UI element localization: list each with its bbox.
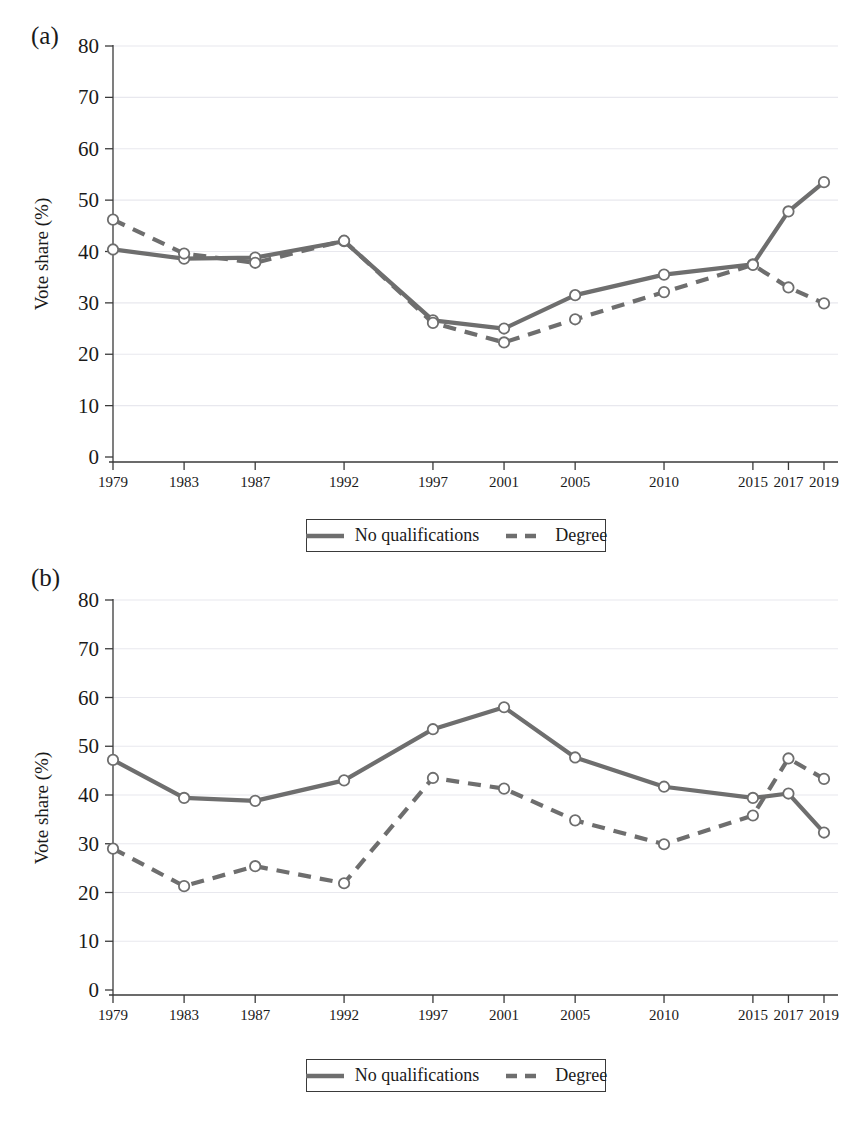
data-point-marker xyxy=(570,314,580,324)
y-tick-label: 10 xyxy=(78,929,99,953)
x-tick-label: 2019 xyxy=(809,1007,839,1023)
x-tick-label: 2019 xyxy=(809,474,839,490)
data-point-marker xyxy=(179,793,189,803)
x-tick-label: 1997 xyxy=(418,474,449,490)
plot-area-b: 0102030405060708019791983198719921997200… xyxy=(0,552,863,1144)
y-tick-label: 70 xyxy=(78,85,99,109)
data-point-marker xyxy=(819,177,829,187)
y-tick-label: 10 xyxy=(78,394,99,418)
y-tick-label: 50 xyxy=(78,734,99,758)
data-point-marker xyxy=(748,260,758,270)
data-point-marker xyxy=(108,755,118,765)
data-point-marker xyxy=(783,788,793,798)
legend-swatch-solid-icon xyxy=(305,1070,345,1082)
data-point-marker xyxy=(499,783,509,793)
x-tick-label: 1983 xyxy=(169,1007,199,1023)
x-tick-label: 1979 xyxy=(98,474,128,490)
data-point-marker xyxy=(499,702,509,712)
data-point-marker xyxy=(179,881,189,891)
legend-label-no-qualifications: No qualifications xyxy=(355,525,479,546)
x-tick-label: 2010 xyxy=(649,1007,679,1023)
x-tick-label: 2005 xyxy=(560,474,590,490)
chart-panel-a: (a) Vote share (%) 010203040506070801979… xyxy=(0,0,863,560)
legend-entry-degree: Degree xyxy=(505,525,607,546)
legend-b: No qualifications Degree xyxy=(306,1059,606,1092)
data-point-marker xyxy=(783,282,793,292)
data-point-marker xyxy=(108,843,118,853)
plot-area-a: 0102030405060708019791983198719921997200… xyxy=(0,0,863,560)
data-point-marker xyxy=(659,269,669,279)
data-point-marker xyxy=(108,214,118,224)
legend-entry-degree: Degree xyxy=(505,1065,607,1086)
data-point-marker xyxy=(428,773,438,783)
data-point-marker xyxy=(428,318,438,328)
data-point-marker xyxy=(570,752,580,762)
x-tick-label: 1992 xyxy=(329,1007,359,1023)
y-tick-label: 30 xyxy=(78,291,99,315)
data-point-marker xyxy=(499,337,509,347)
y-tick-label: 0 xyxy=(89,978,100,1002)
data-point-marker xyxy=(783,206,793,216)
legend-a: No qualifications Degree xyxy=(306,519,606,552)
data-point-marker xyxy=(659,287,669,297)
x-tick-label: 1987 xyxy=(240,1007,271,1023)
data-point-marker xyxy=(108,244,118,254)
data-point-marker xyxy=(339,775,349,785)
y-tick-label: 40 xyxy=(78,783,99,807)
data-point-marker xyxy=(570,815,580,825)
data-point-marker xyxy=(339,878,349,888)
y-tick-label: 0 xyxy=(89,445,100,469)
legend-label-degree: Degree xyxy=(555,525,607,546)
y-tick-label: 80 xyxy=(78,588,99,612)
data-point-marker xyxy=(819,774,829,784)
data-point-marker xyxy=(250,258,260,268)
data-point-marker xyxy=(179,248,189,258)
y-tick-label: 50 xyxy=(78,188,99,212)
x-tick-label: 2005 xyxy=(560,1007,590,1023)
legend-entry-no-qualifications: No qualifications xyxy=(305,525,479,546)
y-tick-label: 80 xyxy=(78,34,99,58)
legend-label-degree: Degree xyxy=(555,1065,607,1086)
data-point-marker xyxy=(659,839,669,849)
x-tick-label: 2001 xyxy=(489,474,519,490)
data-point-marker xyxy=(570,290,580,300)
legend-swatch-solid-icon xyxy=(305,530,345,542)
y-tick-label: 60 xyxy=(78,137,99,161)
data-point-marker xyxy=(250,861,260,871)
x-tick-label: 2010 xyxy=(649,474,679,490)
y-tick-label: 20 xyxy=(78,881,99,905)
y-tick-label: 20 xyxy=(78,342,99,366)
data-point-marker xyxy=(339,236,349,246)
data-point-marker xyxy=(819,298,829,308)
y-tick-label: 60 xyxy=(78,686,99,710)
data-point-marker xyxy=(748,793,758,803)
x-tick-label: 2015 xyxy=(738,474,768,490)
series-line-solid xyxy=(113,182,824,328)
x-tick-label: 1992 xyxy=(329,474,359,490)
x-tick-label: 1997 xyxy=(418,1007,449,1023)
y-tick-label: 40 xyxy=(78,240,99,264)
data-point-marker xyxy=(659,782,669,792)
y-tick-label: 70 xyxy=(78,637,99,661)
x-tick-label: 2001 xyxy=(489,1007,519,1023)
data-point-marker xyxy=(748,810,758,820)
data-point-marker xyxy=(428,724,438,734)
data-point-marker xyxy=(783,753,793,763)
x-tick-label: 1983 xyxy=(169,474,199,490)
series-line-solid xyxy=(113,707,824,832)
legend-entry-no-qualifications: No qualifications xyxy=(305,1065,479,1086)
chart-panel-b: (b) Vote share (%) 010203040506070801979… xyxy=(0,552,863,1144)
x-tick-label: 1987 xyxy=(240,474,271,490)
legend-swatch-dashed-icon xyxy=(505,530,545,542)
x-tick-label: 1979 xyxy=(98,1007,128,1023)
data-point-marker xyxy=(499,323,509,333)
x-tick-label: 2015 xyxy=(738,1007,768,1023)
legend-swatch-dashed-icon xyxy=(505,1070,545,1082)
data-point-marker xyxy=(819,827,829,837)
series-line-dashed xyxy=(113,758,824,886)
legend-label-no-qualifications: No qualifications xyxy=(355,1065,479,1086)
y-tick-label: 30 xyxy=(78,832,99,856)
x-tick-label: 2017 xyxy=(773,1007,804,1023)
x-tick-label: 2017 xyxy=(773,474,804,490)
data-point-marker xyxy=(250,796,260,806)
